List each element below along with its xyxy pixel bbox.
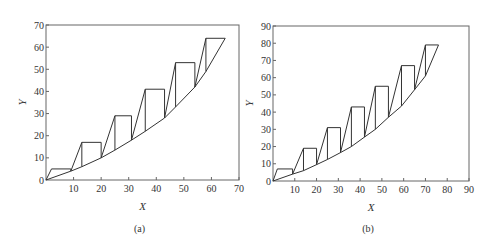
x-tick-label: 70 <box>234 183 244 194</box>
y-tick-label: 30 <box>261 124 271 135</box>
x-tick-label: 30 <box>333 184 343 195</box>
y-tick-label: 60 <box>34 42 44 53</box>
x-tick-label: 60 <box>399 184 409 195</box>
x-tick-label: 70 <box>420 184 430 195</box>
panel-caption: (b) <box>362 223 374 235</box>
plot-frame <box>273 26 469 181</box>
y-tick-label: 70 <box>34 20 44 31</box>
panel-caption: (a) <box>134 223 145 235</box>
x-tick-label: 20 <box>96 183 106 194</box>
step-line <box>364 86 388 137</box>
figure: 10203040506070010203040506070XY(a) 10203… <box>0 0 496 247</box>
x-tick-label: 30 <box>124 183 134 194</box>
y-tick-label: 10 <box>261 158 271 169</box>
chart-panel-a: 10203040506070010203040506070XY(a) <box>16 20 244 236</box>
y-tick-label: 50 <box>34 64 44 75</box>
y-tick-label: 20 <box>261 141 271 152</box>
y-tick-label: 80 <box>261 38 271 49</box>
plot-frame <box>46 25 239 180</box>
x-tick-label: 60 <box>206 183 216 194</box>
step-line <box>415 45 439 90</box>
x-tick-label: 90 <box>464 184 474 195</box>
y-tick-label: 70 <box>261 55 271 66</box>
y-tick-label: 0 <box>266 176 271 187</box>
x-tick-label: 80 <box>442 184 452 195</box>
y-tick-label: 30 <box>34 108 44 119</box>
y-tick-label: 10 <box>34 152 44 163</box>
y-tick-label: 60 <box>261 72 271 83</box>
step-line <box>131 89 164 140</box>
step-line <box>101 116 131 158</box>
x-tick-label: 40 <box>355 184 365 195</box>
x-tick-label: 40 <box>151 183 161 194</box>
x-tick-label: 10 <box>69 183 79 194</box>
chart-panel-b: 1020304050607080900102030405060708090XY(… <box>243 21 474 236</box>
step-line <box>71 142 101 171</box>
y-tick-label: 40 <box>261 107 271 118</box>
y-tick-label: 50 <box>261 89 271 100</box>
x-tick-label: 50 <box>377 184 387 195</box>
x-axis-label: X <box>138 200 147 212</box>
y-tick-label: 0 <box>39 175 44 186</box>
step-line <box>165 63 195 118</box>
x-tick-label: 20 <box>312 184 322 195</box>
y-tick-label: 40 <box>34 86 44 97</box>
equilibrium-curve <box>46 38 225 180</box>
x-tick-label: 10 <box>290 184 300 195</box>
y-axis-label: Y <box>243 99 255 107</box>
y-tick-label: 20 <box>34 130 44 141</box>
y-tick-label: 90 <box>261 21 271 32</box>
x-axis-label: X <box>367 201 376 213</box>
y-axis-label: Y <box>16 98 28 106</box>
x-tick-label: 50 <box>179 183 189 194</box>
